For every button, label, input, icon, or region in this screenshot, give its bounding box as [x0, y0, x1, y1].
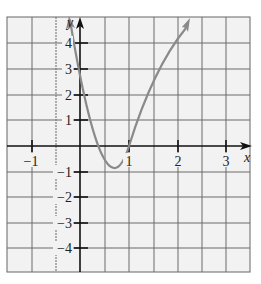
y-tick-label: 4: [65, 36, 72, 51]
x-tick-label: 2: [175, 154, 182, 169]
x-tick-label: 3: [223, 154, 230, 169]
y-tick-label: 3: [65, 62, 72, 77]
y-axis-label: y: [65, 15, 74, 30]
y-tick-label: 1: [65, 113, 72, 128]
x-tick-label: −1: [24, 154, 39, 169]
x-axis-label: x: [243, 150, 251, 165]
y-tick-label: 2: [65, 88, 72, 103]
parabola-graph: −1 1 2 3 x y 4 3 2 1 −1 −2 −3 −4: [0, 0, 261, 284]
y-tick-label: −4: [57, 241, 72, 256]
y-tick-label: −1: [57, 165, 72, 180]
y-tick-label: −2: [57, 190, 72, 205]
y-tick-label: −3: [57, 216, 72, 231]
x-tick-label: 1: [126, 154, 133, 169]
